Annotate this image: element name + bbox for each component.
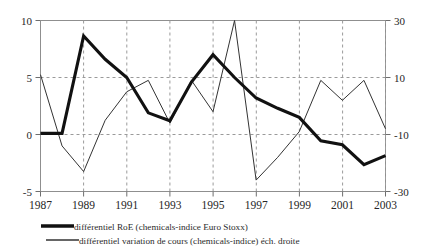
left-tick-label-0: 0 [27,129,33,141]
right-tick-label-10: 10 [394,72,406,84]
left-axis-ticks [36,21,41,192]
x-tick-label-1991: 1991 [115,199,138,211]
x-tick-label-1989: 1989 [72,199,95,211]
x-axis-ticks [41,192,386,197]
right-tick-label-30: 30 [394,15,406,27]
legend-item-roe: différentiel RoE (chemicals-indice Euro … [41,222,248,232]
x-axis-labels: 1987 1989 1991 1993 1995 1997 1999 2001 … [29,199,397,211]
right-axis-ticks [386,21,391,192]
chart-figure: 10 5 0 -5 30 10 -10 -30 1987 1989 1991 1… [0,0,431,249]
line-chart-svg: 10 5 0 -5 30 10 -10 -30 1987 1989 1991 1… [0,0,431,249]
x-tick-label-2003: 2003 [374,199,397,211]
right-axis-labels: 30 10 -10 -30 [394,15,409,198]
legend-label-roe: différentiel RoE (chemicals-indice Euro … [74,222,248,232]
left-tick-label-minus5: -5 [23,186,33,198]
x-tick-label-1993: 1993 [158,199,181,211]
legend-label-variation: différentiel variation de cours (chemica… [79,236,300,246]
x-tick-label-1987: 1987 [29,199,52,211]
chart-legend: différentiel RoE (chemicals-indice Euro … [41,222,300,246]
left-tick-label-5: 5 [27,72,33,84]
right-tick-label-minus30: -30 [394,186,409,198]
right-tick-label-minus10: -10 [394,129,409,141]
x-tick-label-1999: 1999 [288,199,311,211]
x-tick-label-2001: 2001 [331,199,354,211]
left-tick-label-10: 10 [21,15,33,27]
x-tick-label-1997: 1997 [245,199,268,211]
legend-item-variation: différentiel variation de cours (chemica… [46,236,300,246]
vertical-gridlines [84,21,386,192]
left-axis-labels: 10 5 0 -5 [21,15,33,198]
x-tick-label-1995: 1995 [202,199,225,211]
